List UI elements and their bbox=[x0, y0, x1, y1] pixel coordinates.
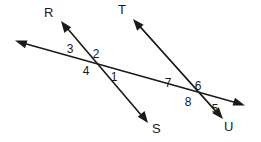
line-RS bbox=[61, 21, 148, 123]
line-TU bbox=[133, 19, 223, 119]
point-label-R: R bbox=[44, 5, 53, 20]
angle-label-3: 3 bbox=[67, 42, 74, 56]
RS-segment bbox=[66, 27, 143, 118]
angle-label-1: 1 bbox=[111, 70, 118, 84]
point-label-T: T bbox=[118, 2, 126, 17]
TU-segment bbox=[138, 24, 218, 113]
angle-label-8: 8 bbox=[185, 95, 192, 109]
geometry-figure: R T S U 1 2 3 4 5 6 7 8 bbox=[0, 0, 261, 142]
transversal-left-arrowhead bbox=[15, 40, 28, 48]
point-label-U: U bbox=[224, 119, 233, 134]
transversal-right-arrowhead bbox=[233, 98, 246, 106]
point-label-S: S bbox=[152, 121, 161, 136]
angle-label-6: 6 bbox=[195, 79, 202, 93]
line-transversal bbox=[15, 40, 245, 105]
transversal-segment bbox=[21, 43, 239, 104]
geometry-diagram-canvas: R T S U 1 2 3 4 5 6 7 8 bbox=[0, 0, 261, 142]
angle-label-4: 4 bbox=[83, 64, 90, 78]
angle-label-7: 7 bbox=[165, 76, 172, 90]
angle-label-5: 5 bbox=[212, 102, 219, 116]
angle-label-2: 2 bbox=[93, 47, 100, 61]
